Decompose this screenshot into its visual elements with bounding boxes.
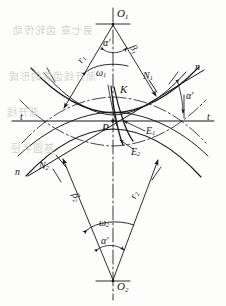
bleed-text-line-2: 渐开线齿廓的形成 bbox=[8, 68, 96, 83]
dot-p bbox=[111, 119, 114, 122]
label-alpha-top: α′ bbox=[103, 38, 110, 48]
radius-r2-lower-right bbox=[113, 160, 158, 280]
normal-foot-tick-n2 bbox=[56, 155, 66, 167]
label-center-o1: O1 bbox=[117, 8, 128, 20]
label-profile-e1: E1 bbox=[146, 126, 155, 137]
label-tangent-right-t: t bbox=[207, 112, 210, 122]
label-alpha-right: α′ bbox=[186, 91, 193, 101]
angle-arc-alpha-right bbox=[178, 83, 183, 113]
dot-o2 bbox=[112, 280, 115, 283]
label-n2: N2 bbox=[39, 161, 49, 172]
dot-o1 bbox=[112, 23, 115, 26]
label-center-o2: O2 bbox=[117, 281, 128, 293]
omega2-rotation-arrow bbox=[87, 222, 134, 230]
label-n1: N1 bbox=[143, 71, 153, 82]
angle-arc-alpha-top bbox=[104, 48, 127, 53]
bleed-text-line-1: 第七章 齿轮传动 bbox=[12, 22, 93, 37]
label-profile-e2: E2 bbox=[131, 147, 140, 158]
figure-canvas: 第七章 齿轮传动 渐开线齿廓的形成 渐开线 基圆半径 O1 O2 r1 r2 β… bbox=[0, 0, 226, 306]
label-pitch-point-p: P bbox=[102, 122, 109, 133]
label-tangent-left-t: t bbox=[20, 112, 23, 122]
angle-arc-alpha-bottom bbox=[98, 245, 124, 250]
label-omega2: ω2 bbox=[99, 218, 109, 229]
label-normal-left-n: n bbox=[15, 167, 20, 177]
label-alpha-bottom: α′ bbox=[101, 236, 108, 246]
label-contact-point-k: K bbox=[120, 84, 127, 95]
label-omega1: ω1 bbox=[96, 68, 106, 79]
bleed-text-line-4: 基圆半径 bbox=[10, 140, 54, 155]
label-normal-right-n: n bbox=[195, 62, 200, 72]
